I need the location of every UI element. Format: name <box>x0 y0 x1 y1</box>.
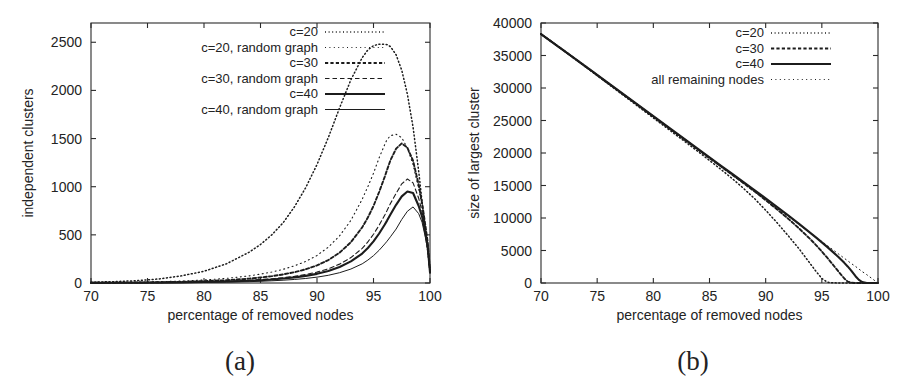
y-tick-label: 0 <box>74 275 82 291</box>
legend-label-2: c=40 <box>735 56 764 71</box>
x-tick-label: 85 <box>253 288 269 304</box>
y-axis-title: size of largest cluster <box>466 87 482 219</box>
legend-label-0: c=20 <box>289 24 318 39</box>
series-line-2 <box>91 143 430 282</box>
x-axis-title: percentage of removed nodes <box>616 307 802 323</box>
panel-a: 70758085909510005001000150020002500perce… <box>0 0 459 383</box>
y-tick-label: 1500 <box>51 131 82 147</box>
legend-label-3: all remaining nodes <box>651 72 764 87</box>
series-line-1 <box>91 134 430 282</box>
x-tick-label: 100 <box>418 288 442 304</box>
x-tick-label: 85 <box>701 288 717 304</box>
y-tick-label: 1000 <box>51 179 82 195</box>
panel-a-chart: 70758085909510005001000150020002500perce… <box>0 0 458 383</box>
series-line-3 <box>91 179 430 283</box>
x-tick-label: 80 <box>196 288 212 304</box>
x-tick-label: 70 <box>83 288 99 304</box>
legend-label-1: c=30 <box>735 41 764 56</box>
x-tick-label: 70 <box>533 288 549 304</box>
y-tick-label: 40000 <box>493 15 532 31</box>
legend-label-4: c=40 <box>289 86 318 101</box>
x-tick-label: 95 <box>366 288 382 304</box>
legend-label-0: c=20 <box>735 25 764 40</box>
y-tick-label: 35000 <box>493 48 532 64</box>
y-axis-title: independent clusters <box>20 88 36 217</box>
y-tick-label: 0 <box>524 275 532 291</box>
panel-caption: (b) <box>677 346 708 376</box>
x-tick-label: 75 <box>140 288 156 304</box>
x-tick-label: 100 <box>866 288 890 304</box>
legend-label-3: c=30, random graph <box>201 71 318 86</box>
plot-frame <box>541 23 878 283</box>
y-tick-label: 20000 <box>493 145 532 161</box>
y-tick-label: 15000 <box>493 178 532 194</box>
x-axis-title: percentage of removed nodes <box>167 307 353 323</box>
legend-label-1: c=20, random graph <box>201 40 318 55</box>
x-tick-label: 80 <box>645 288 661 304</box>
y-tick-label: 2000 <box>51 82 82 98</box>
x-tick-label: 75 <box>589 288 605 304</box>
y-tick-label: 5000 <box>500 243 531 259</box>
panel-caption: (a) <box>225 346 255 376</box>
panel-b-chart: 7075808590951000500010000150002000025000… <box>459 0 917 383</box>
y-tick-label: 25000 <box>493 113 532 129</box>
legend-label-5: c=40, random graph <box>201 102 318 117</box>
legend-label-2: c=30 <box>289 55 318 70</box>
x-tick-label: 95 <box>814 288 830 304</box>
x-tick-label: 90 <box>309 288 325 304</box>
y-tick-label: 30000 <box>493 80 532 96</box>
panel-b: 7075808590951000500010000150002000025000… <box>459 0 917 383</box>
y-tick-label: 2500 <box>51 34 82 50</box>
x-tick-label: 90 <box>757 288 773 304</box>
y-tick-label: 10000 <box>493 210 532 226</box>
figure-root: 70758085909510005001000150020002500perce… <box>0 0 917 383</box>
series-line-4 <box>91 192 430 283</box>
y-tick-label: 500 <box>59 227 83 243</box>
